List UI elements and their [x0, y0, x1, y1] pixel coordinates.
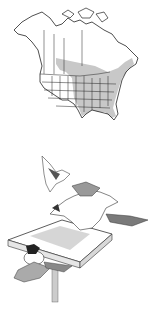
feeder-tray	[8, 220, 112, 302]
arctic-islands	[62, 8, 108, 22]
range-area	[56, 58, 134, 118]
bird-feeder-illustration	[0, 150, 156, 310]
feeder-pole	[52, 268, 58, 302]
birds-at-feeder-graphic	[0, 150, 156, 310]
flying-bird	[42, 156, 70, 192]
north-america-map-graphic	[0, 0, 156, 140]
range-map	[0, 0, 156, 140]
